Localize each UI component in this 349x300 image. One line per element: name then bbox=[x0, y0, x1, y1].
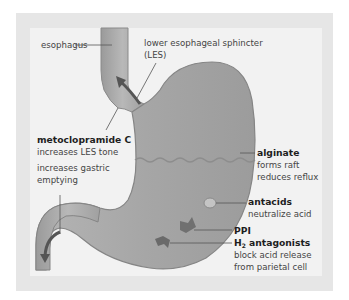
ppi-title: PPI bbox=[234, 225, 251, 236]
alginate-line1: forms raft bbox=[257, 160, 299, 171]
esophagus-label: esophagus bbox=[41, 40, 88, 51]
les-label-line2: (LES) bbox=[144, 50, 166, 61]
metoclopramide-effect-les: increases LES tone bbox=[37, 147, 118, 158]
antacids-line1: neutralize acid bbox=[248, 209, 312, 220]
alginate-line2: reduces reflux bbox=[257, 172, 318, 183]
metoclopramide-effect-emptying-line1: increases gastric bbox=[37, 163, 110, 174]
metoclopramide-effect-emptying-line2: emptying bbox=[37, 175, 78, 186]
les-label-line1: lower esophageal sphincter bbox=[144, 38, 263, 49]
alginate-title: alginate bbox=[257, 147, 299, 158]
antacids-title: antacids bbox=[248, 196, 292, 207]
metoclopramide-title: metoclopramide C bbox=[37, 134, 131, 145]
h2-line1: block acid release bbox=[234, 250, 311, 261]
antacid-pill-icon bbox=[204, 198, 216, 208]
h2-line2: from parietal cell bbox=[234, 262, 307, 273]
h2-antagonists-title: H2 antagonists bbox=[234, 237, 310, 251]
